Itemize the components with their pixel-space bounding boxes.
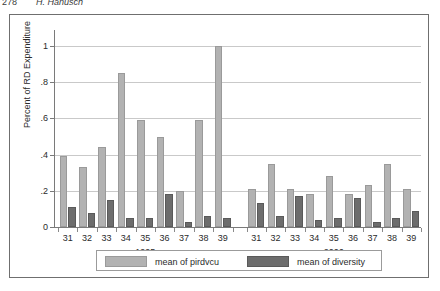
x-tick-mark bbox=[116, 228, 117, 232]
gridline bbox=[55, 118, 421, 119]
x-tick-label: 36 bbox=[160, 233, 170, 243]
y-axis-title: Percent of RD Expenditure bbox=[22, 21, 32, 128]
y-tick-label: 1 bbox=[43, 41, 48, 51]
page-number: 278 bbox=[2, 0, 17, 8]
x-tick-label: 38 bbox=[387, 233, 397, 243]
bar bbox=[373, 222, 381, 227]
figure-frame: Percent of RD Expenditure 0.2.4.6.81 313… bbox=[9, 14, 429, 278]
x-tick-label: 31 bbox=[63, 233, 73, 243]
y-tick-mark bbox=[50, 227, 55, 228]
x-tick-mark bbox=[266, 228, 267, 232]
bar bbox=[176, 191, 184, 227]
x-tick-label: 32 bbox=[271, 233, 281, 243]
y-tick-label: .8 bbox=[40, 77, 48, 87]
x-tick-mark bbox=[155, 228, 156, 232]
bar bbox=[98, 147, 106, 227]
x-tick-mark bbox=[213, 228, 214, 232]
bar bbox=[88, 213, 96, 227]
bar bbox=[126, 218, 134, 227]
bar bbox=[165, 194, 173, 227]
x-tick-label: 37 bbox=[368, 233, 378, 243]
x-tick-mark bbox=[97, 228, 98, 232]
x-tick-mark bbox=[363, 228, 364, 232]
bar bbox=[146, 218, 154, 227]
x-tick-label: 38 bbox=[198, 233, 208, 243]
chart-legend: mean of pirdvcumean of diversity bbox=[96, 250, 382, 271]
bar bbox=[257, 203, 265, 227]
gridline bbox=[55, 155, 421, 156]
bar bbox=[195, 120, 203, 227]
bar bbox=[345, 194, 353, 227]
x-tick-label: 39 bbox=[406, 233, 416, 243]
x-tick-label: 34 bbox=[309, 233, 319, 243]
bar bbox=[248, 189, 256, 227]
x-tick-mark bbox=[382, 228, 383, 232]
legend-label: mean of pirdvcu bbox=[155, 257, 219, 267]
x-tick-mark bbox=[285, 228, 286, 232]
y-tick-label: .2 bbox=[40, 186, 48, 196]
bar bbox=[204, 216, 212, 227]
x-tick-label: 33 bbox=[101, 233, 111, 243]
bar bbox=[215, 46, 223, 227]
gridline bbox=[55, 46, 421, 47]
legend-entry: mean of pirdvcu bbox=[105, 255, 219, 268]
x-tick-mark bbox=[402, 228, 403, 232]
x-tick-mark bbox=[421, 228, 422, 232]
bar bbox=[137, 120, 145, 227]
x-tick-label: 34 bbox=[121, 233, 131, 243]
bar bbox=[334, 218, 342, 227]
x-tick-mark bbox=[247, 228, 248, 232]
bar bbox=[287, 189, 295, 227]
bar bbox=[185, 222, 193, 227]
y-axis-line bbox=[54, 30, 55, 228]
bar bbox=[354, 198, 362, 227]
x-axis-line bbox=[54, 227, 421, 228]
bar bbox=[268, 164, 276, 227]
bar bbox=[68, 207, 76, 227]
bar bbox=[60, 156, 68, 227]
x-tick-label: 35 bbox=[140, 233, 150, 243]
x-tick-mark bbox=[305, 228, 306, 232]
x-tick-label: 37 bbox=[179, 233, 189, 243]
gridline bbox=[55, 82, 421, 83]
y-tick-mark bbox=[50, 46, 55, 47]
y-tick-mark bbox=[50, 155, 55, 156]
bar bbox=[392, 218, 400, 227]
bar bbox=[118, 73, 126, 227]
bar bbox=[384, 164, 392, 227]
x-tick-label: 31 bbox=[251, 233, 261, 243]
legend-swatch-pirdvcu bbox=[105, 256, 147, 267]
x-tick-mark bbox=[174, 228, 175, 232]
y-tick-label: .6 bbox=[40, 113, 48, 123]
legend-entry: mean of diversity bbox=[247, 255, 365, 268]
bar bbox=[306, 194, 314, 227]
bar bbox=[315, 220, 323, 227]
y-tick-mark bbox=[50, 82, 55, 83]
y-tick-mark bbox=[50, 191, 55, 192]
y-tick-label: .4 bbox=[40, 150, 48, 160]
bar bbox=[223, 218, 231, 227]
legend-swatch-diversity bbox=[247, 256, 289, 267]
x-tick-label: 35 bbox=[329, 233, 339, 243]
bar bbox=[412, 211, 420, 227]
page-running-header: 278 H. Hanusch bbox=[0, 0, 440, 11]
x-tick-mark bbox=[233, 228, 234, 232]
x-tick-mark bbox=[136, 228, 137, 232]
x-tick-label: 36 bbox=[348, 233, 358, 243]
y-tick-mark bbox=[50, 118, 55, 119]
plot-area: 0.2.4.6.81 31323334353637383931323334353… bbox=[54, 30, 421, 228]
bar bbox=[365, 185, 373, 227]
x-tick-label: 32 bbox=[82, 233, 92, 243]
legend-label: mean of diversity bbox=[297, 257, 365, 267]
x-tick-mark bbox=[324, 228, 325, 232]
x-tick-mark bbox=[58, 228, 59, 232]
bar bbox=[107, 200, 115, 227]
bar bbox=[403, 189, 411, 227]
bar bbox=[295, 196, 303, 227]
running-title: H. Hanusch bbox=[36, 0, 83, 8]
bar bbox=[326, 176, 334, 227]
x-tick-mark bbox=[343, 228, 344, 232]
bar bbox=[276, 216, 284, 227]
x-tick-mark bbox=[194, 228, 195, 232]
bar bbox=[157, 137, 165, 228]
